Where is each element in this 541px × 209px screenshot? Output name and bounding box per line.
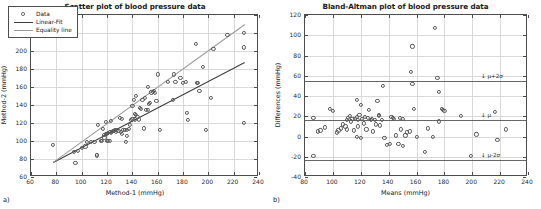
data-point-marker: [318, 128, 322, 132]
x-tick-label: 100: [326, 178, 337, 185]
x-axis-tick: [208, 15, 209, 18]
x-axis-tick: [234, 172, 235, 175]
y-tick-label: -40: [280, 173, 301, 180]
y-axis-tick: [305, 15, 308, 16]
x-axis-tick: [107, 15, 108, 18]
y-tick-label: 120: [280, 11, 301, 18]
gridline-horizontal: [31, 159, 257, 160]
gridline-vertical: [56, 15, 57, 175]
data-point-marker: [126, 127, 130, 131]
data-point-marker: [356, 124, 360, 128]
y-axis-tick: [523, 96, 526, 97]
data-point-marker: [132, 98, 136, 102]
gridline-vertical: [361, 15, 362, 175]
data-point-marker: [375, 99, 379, 103]
x-tick-label: 180: [176, 178, 187, 185]
data-point-marker: [367, 108, 371, 112]
gridline-horizontal: [305, 116, 526, 117]
x-axis-tick: [132, 172, 133, 175]
data-point-marker: [354, 98, 358, 102]
data-point-marker: [194, 42, 198, 46]
gridline-horizontal: [31, 105, 257, 106]
data-point-marker: [410, 44, 414, 48]
x-tick-label: 140: [382, 178, 393, 185]
data-point-marker: [137, 117, 141, 121]
gridline-vertical: [417, 15, 418, 175]
data-point-marker: [352, 128, 356, 132]
data-point-marker: [172, 72, 176, 76]
y-axis-tick: [305, 116, 308, 117]
data-point-marker: [209, 96, 213, 100]
x-tick-label: 180: [438, 178, 449, 185]
reference-line: [305, 120, 526, 121]
gridline-vertical: [333, 15, 334, 175]
data-point-marker: [186, 118, 190, 122]
data-point-marker: [382, 135, 386, 139]
x-axis-tick: [56, 172, 57, 175]
y-tick-label: 80: [280, 51, 301, 58]
x-axis-tick: [389, 15, 390, 18]
data-point-marker: [242, 45, 246, 49]
data-point-marker: [371, 129, 375, 133]
x-tick-label: 80: [52, 178, 60, 185]
data-point-marker: [158, 128, 162, 132]
data-point-marker: [166, 80, 170, 84]
y-axis-tick: [254, 87, 257, 88]
x-tick-label: 140: [126, 178, 137, 185]
x-axis-tick: [389, 172, 390, 175]
y-tick-label: 140: [6, 101, 27, 108]
y-axis-tick: [254, 51, 257, 52]
data-point-marker: [410, 82, 414, 86]
data-point-marker: [331, 109, 335, 113]
y-tick-label: 60: [6, 173, 27, 180]
legend-item-equality-line: Equality line: [13, 26, 72, 34]
x-axis-tick: [333, 172, 334, 175]
x-tick-label: 80: [300, 178, 308, 185]
data-point-marker: [107, 139, 111, 143]
data-point-marker: [345, 127, 349, 131]
bland-altman-xaxis-title: Means (mmHg): [270, 189, 541, 197]
y-axis-tick: [254, 123, 257, 124]
y-tick-label: 200: [6, 47, 27, 54]
data-point-marker: [437, 119, 441, 123]
x-axis-tick: [158, 172, 159, 175]
data-point-marker: [381, 84, 385, 88]
y-axis-tick: [305, 96, 308, 97]
data-point-marker: [431, 134, 435, 138]
y-axis-tick: [31, 69, 34, 70]
x-axis-tick: [82, 15, 83, 18]
legend-item-data: Data: [13, 10, 72, 18]
data-point-marker: [495, 137, 499, 141]
data-point-marker: [359, 135, 363, 139]
x-tick-label: 60: [26, 178, 34, 185]
data-point-marker: [130, 104, 134, 108]
gridline-horizontal: [305, 96, 526, 97]
x-tick-label: 240: [521, 178, 532, 185]
x-axis-tick: [259, 15, 260, 18]
panel-a-letter: a): [3, 196, 10, 204]
data-point-marker: [125, 134, 129, 138]
y-axis-tick: [305, 157, 308, 158]
data-point-marker: [433, 26, 437, 30]
data-point-marker: [145, 85, 149, 89]
panel-bland-altman-plot: Bland-Altman plot of blood pressure data…: [270, 0, 541, 209]
data-point-marker: [423, 150, 427, 154]
y-axis-tick: [523, 15, 526, 16]
x-axis-tick: [361, 15, 362, 18]
x-axis-tick: [305, 172, 306, 175]
x-tick-label: 240: [252, 178, 263, 185]
data-point-marker: [409, 70, 413, 74]
x-axis-tick: [31, 172, 32, 175]
x-axis-tick: [82, 172, 83, 175]
data-point-marker: [399, 127, 403, 131]
x-tick-label: 200: [466, 178, 477, 185]
y-axis-tick: [523, 35, 526, 36]
data-point-marker: [83, 144, 87, 148]
y-tick-label: 160: [6, 83, 27, 90]
data-point-marker: [492, 110, 496, 114]
data-point-marker: [442, 109, 446, 113]
figure-container: Scatter plot of blood pressure data Meth…: [0, 0, 541, 209]
panel-b-letter: b): [273, 196, 280, 204]
x-axis-tick: [417, 15, 418, 18]
data-point-marker: [139, 107, 143, 111]
